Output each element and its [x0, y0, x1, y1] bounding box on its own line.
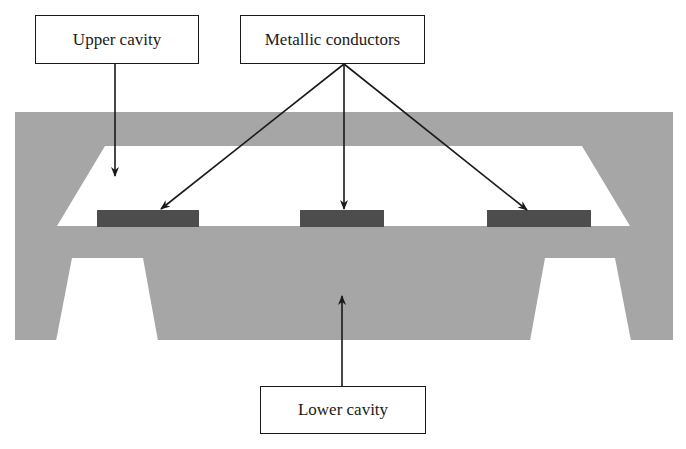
lower-cavity-text: Lower cavity: [298, 400, 388, 420]
metallic-conductors-label: Metallic conductors: [240, 15, 425, 64]
lower-cavity-left: [56, 258, 158, 341]
cross-section-diagram: [0, 0, 686, 449]
lower-cavity-right: [530, 258, 631, 341]
metallic-conductors-text: Metallic conductors: [265, 30, 401, 50]
metallic-conductor-2: [300, 210, 384, 227]
metallic-conductor-1: [97, 210, 199, 227]
lower-cavity-label: Lower cavity: [260, 386, 426, 434]
upper-cavity-label: Upper cavity: [35, 15, 199, 64]
metallic-conductor-3: [487, 210, 591, 227]
upper-cavity-text: Upper cavity: [73, 30, 161, 50]
metallic-conductors-group: [97, 210, 591, 227]
